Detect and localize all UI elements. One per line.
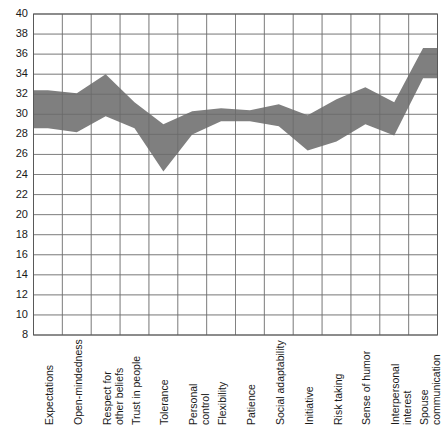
x-axis-tick-label: Respect for other beliefs: [102, 339, 125, 425]
x-axis-tick-label: Sense of humor: [361, 339, 373, 425]
x-axis-tick-label: Flexibility: [217, 339, 229, 425]
x-axis-tick-label: Social adaptability: [275, 339, 287, 425]
x-axis-tick-label: Spouse communication: [419, 339, 442, 425]
x-axis-tick-label: Initiative: [304, 339, 316, 425]
x-axis-tick-label: Interpersonal interest: [390, 339, 413, 425]
x-axis-tick-label: Patience: [246, 339, 258, 425]
x-axis-tick-label: Risk taking: [333, 339, 345, 425]
x-axis-tick-label: Trust in people: [131, 339, 143, 425]
x-axis-tick-label: Open-mindedness: [73, 339, 85, 425]
x-axis-tick-label: Personal control: [188, 339, 211, 425]
x-axis-tick-label: Tolerance: [159, 339, 171, 425]
x-axis-tick-label: Expectations: [44, 339, 56, 425]
band-chart: 403836343230282624222018161412108 Expect…: [0, 0, 447, 429]
